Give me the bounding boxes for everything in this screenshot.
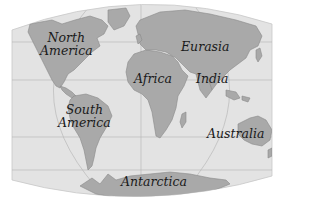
label-eurasia: Eurasia	[181, 40, 229, 53]
label-australia: Australia	[207, 127, 264, 140]
label-africa: Africa	[134, 72, 172, 85]
landmass-new-zealand	[268, 148, 272, 158]
label-india: India	[196, 72, 228, 85]
label-antarctica: Antarctica	[121, 175, 187, 188]
label-south-america: South America	[58, 103, 111, 129]
label-south-america-line2: America	[58, 116, 111, 129]
label-north-america-line2: America	[40, 44, 93, 57]
label-north-america: North America	[40, 31, 93, 57]
